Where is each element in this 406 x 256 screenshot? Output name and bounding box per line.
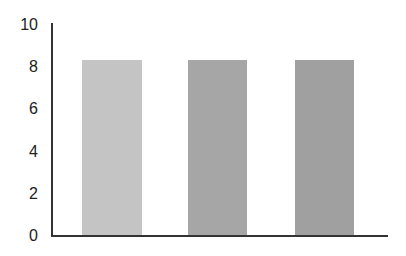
y-tick-label-10: 10 (8, 17, 38, 33)
bar-1 (82, 60, 142, 236)
x-axis-line (51, 235, 388, 237)
bar-2 (188, 60, 247, 236)
y-tick-label-0: 0 (8, 228, 38, 244)
y-tick-label-8: 8 (8, 59, 38, 75)
y-tick-label-2: 2 (8, 186, 38, 202)
y-axis-line (51, 23, 53, 237)
bar-chart: 10 8 6 4 2 0 (0, 0, 406, 256)
y-tick-label-4: 4 (8, 144, 38, 160)
y-tick-label-6: 6 (8, 101, 38, 117)
bar-3 (295, 60, 354, 236)
